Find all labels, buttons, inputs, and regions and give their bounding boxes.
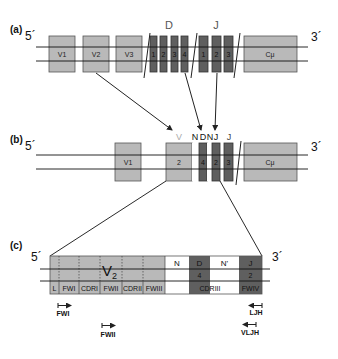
primer-fwi: FWI	[57, 303, 71, 317]
v1-label: V1	[58, 51, 67, 58]
break-mark	[234, 33, 240, 78]
j1-label: 1	[202, 51, 206, 58]
j-joined-header: J	[214, 132, 219, 142]
region-fwi: FWI	[63, 285, 76, 292]
zoom-guide-right	[220, 181, 262, 256]
five-prime-label: 5´	[25, 29, 36, 43]
five-prime-label: 5´	[31, 250, 42, 264]
three-prime-label: 3´	[311, 30, 322, 44]
d4-label: 4	[201, 159, 205, 166]
primer-ljh: LJH	[249, 303, 263, 316]
panel-b: (b) 5´ 3´ V N D N J J V1 2 4 2 3 Cμ	[10, 132, 322, 185]
panel-a: (a) 5´ 3´ V1 V2 V3 D 1 2 3 4 J 1 2	[10, 19, 322, 78]
v2-label: 2	[177, 159, 181, 166]
j-header: J	[213, 19, 219, 31]
region-fwii: FWII	[104, 285, 119, 292]
panel-a-label: (a)	[10, 24, 22, 35]
d4-label: 4	[183, 51, 187, 58]
j2-label: 2	[214, 159, 218, 166]
j2-rearrangement-arrow	[215, 73, 217, 130]
d1-label: 1	[152, 51, 156, 58]
panel-c: (c) 5´ 3´ V2 N	[10, 240, 283, 338]
c-mu-label: Cμ	[265, 159, 274, 167]
j3-label: 3	[227, 159, 231, 166]
n-prime-header: N	[207, 132, 214, 142]
n-region	[192, 143, 199, 181]
n-header: N	[192, 132, 199, 142]
vdj-recombination-diagram: (a) 5´ 3´ V1 V2 V3 D 1 2 3 4 J 1 2	[0, 0, 338, 359]
five-prime-label: 5´	[25, 139, 36, 153]
d-number: 4	[198, 272, 202, 279]
primer-fwii: FWII	[101, 323, 116, 338]
j-label: J	[249, 259, 253, 268]
panel-b-label: (b)	[10, 134, 23, 145]
primer-fwi-label: FWI	[57, 310, 70, 317]
region-cdriii: CDRIII	[200, 285, 221, 292]
primer-vljh: VLJH	[241, 322, 259, 336]
d-header: D	[200, 132, 207, 142]
d4-rearrangement-arrow	[185, 73, 201, 130]
j-header: J	[227, 132, 232, 142]
d-label: D	[197, 259, 203, 268]
region-cdri: CDRI	[81, 285, 98, 292]
break-mark	[236, 141, 241, 185]
j-number: 2	[249, 272, 253, 279]
v2-rearrangement-arrow	[96, 73, 172, 130]
region-l: L	[53, 285, 57, 292]
three-prime-label: 3´	[311, 140, 322, 154]
v1-label: V1	[124, 159, 133, 166]
region-fwiii: FWIII	[146, 285, 163, 292]
zoom-guide-left	[50, 181, 166, 256]
panel-c-label: (c)	[10, 240, 22, 251]
j3-label: 3	[227, 51, 231, 58]
primer-ljh-label: LJH	[249, 309, 262, 316]
region-cdrii: CDRII	[123, 285, 142, 292]
n-prime-region	[207, 143, 212, 181]
d3-label: 3	[173, 51, 177, 58]
v3-label: V3	[125, 51, 134, 58]
three-prime-label: 3´	[272, 250, 283, 264]
n-prime-label: N'	[221, 259, 229, 268]
break-mark	[144, 33, 150, 78]
d-header: D	[165, 19, 173, 31]
v-header: V	[176, 132, 182, 142]
primer-fwii-label: FWII	[101, 331, 116, 338]
d2-label: 2	[162, 51, 166, 58]
break-mark	[191, 33, 197, 78]
j2-label: 2	[215, 51, 219, 58]
n-label: N	[174, 259, 180, 268]
v2-label: V2	[92, 51, 101, 58]
region-fwiv: FWIV	[242, 285, 260, 292]
primer-vljh-label: VLJH	[241, 329, 259, 336]
c-mu-label: Cμ	[265, 51, 274, 59]
